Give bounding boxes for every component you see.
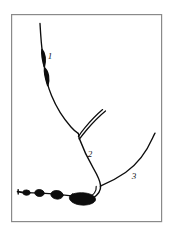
callout-label-3: 3 [131,171,137,181]
figure-root: 1 2 3 [0,0,173,235]
figure-border [12,15,162,222]
callout-label-1: 1 [48,51,53,61]
rhizome-bulb-4 [69,193,95,205]
rhizome-bulb-1 [23,190,31,196]
callout-label-2: 2 [88,149,93,159]
botanical-illustration: 1 2 3 [0,0,173,235]
